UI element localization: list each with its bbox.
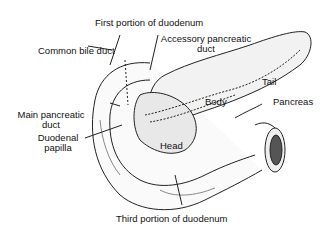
label-first-portion-duodenum: First portion of duodenum xyxy=(95,18,203,28)
label-head: Head xyxy=(160,141,183,151)
label-tail: Tail xyxy=(262,77,276,87)
label-duodenal-papilla: Duodenal papilla xyxy=(30,133,86,153)
label-pancreas: Pancreas xyxy=(273,97,313,107)
label-common-bile-duct: Common bile duct xyxy=(38,46,115,56)
label-third-portion-duodenum: Third portion of duodenum xyxy=(116,214,227,224)
label-main-pancreatic-duct: Main pancreatic duct xyxy=(6,110,96,130)
label-accessory-pancreatic-duct: Accessory pancreatic duct xyxy=(158,34,254,54)
anatomy-diagram: First portion of duodenum Common bile du… xyxy=(0,0,331,231)
label-body: Body xyxy=(205,97,227,107)
